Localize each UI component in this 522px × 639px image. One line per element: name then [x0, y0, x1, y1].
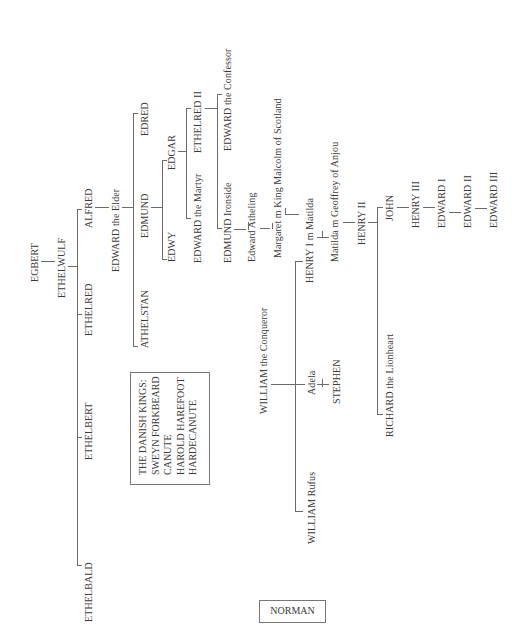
connector-line — [77, 209, 78, 566]
person-ethelbert: ETHELBERT — [83, 402, 95, 460]
connector-line — [285, 208, 286, 215]
connector-line — [217, 94, 222, 95]
person-edward-the-elder: EDWARD the Elder — [110, 189, 122, 272]
connector-line — [449, 212, 461, 213]
person-henry-i: HENRY I m Matilda — [304, 198, 316, 283]
connector-line — [122, 207, 133, 208]
person-edward-ii: EDWARD II — [462, 175, 474, 228]
person-ethelred: ETHELRED — [83, 284, 95, 336]
person-edgar: EDGAR — [166, 135, 178, 170]
connector-line — [217, 94, 218, 229]
person-edmund-ironside: EDMUND Ironside — [222, 182, 234, 263]
connector-line — [377, 207, 383, 208]
person-william-rufus: WILLIAM Rufus — [306, 472, 318, 544]
danish-kings-text: THE DANISH KINGS: SWEYN FORKBEARD CANUTE… — [137, 376, 200, 475]
person-stephen: STEPHEN — [331, 359, 343, 404]
person-henry-ii: HENRY II — [356, 202, 368, 245]
person-egbert: EGBERT — [29, 243, 41, 282]
connector-line — [77, 565, 82, 566]
connector-line — [162, 160, 163, 260]
connector-line — [205, 108, 217, 109]
norman-legend-box: NORMAN — [259, 600, 326, 623]
person-edward-iii: EDWARD III — [488, 172, 500, 228]
connector-line — [178, 151, 186, 152]
connector-line — [234, 229, 246, 230]
connector-line — [186, 108, 187, 219]
connector-line — [77, 209, 82, 210]
connector-line — [151, 207, 162, 208]
danish-king-item: CANUTE — [162, 376, 175, 475]
connector-line — [377, 207, 378, 415]
connector-line — [397, 207, 409, 208]
connector-line — [260, 228, 270, 229]
person-alfred: ALFRED — [83, 189, 95, 229]
person-john: JOHN — [384, 195, 396, 221]
danish-kings-heading: THE DANISH KINGS: — [137, 376, 150, 475]
connector-line — [423, 207, 435, 208]
connector-line — [317, 384, 329, 385]
person-richard-the-lionheart: RICHARD the Lionheart — [384, 334, 396, 437]
person-edwy: EDWY — [166, 232, 178, 262]
connector-line — [217, 228, 222, 229]
connector-line — [271, 384, 305, 385]
connector-line — [248, 222, 249, 230]
person-edward-the-martyr: EDWARD the Martyr — [192, 174, 204, 263]
connector-line — [133, 113, 134, 347]
connector-line — [322, 379, 323, 387]
danish-king-item: HARDECANUTE — [187, 376, 200, 475]
connector-line — [186, 108, 191, 109]
connector-line — [322, 231, 323, 238]
person-athelstan: ATHELSTAN — [139, 290, 151, 348]
connector-line — [295, 511, 303, 512]
family-tree-diagram: EGBERT ETHELWULF ALFRED ETHELRED ETHELBE… — [0, 0, 522, 639]
person-matilda: Matilda m Geoffrey of Anjou — [329, 142, 341, 262]
connector-line — [162, 160, 167, 161]
person-edward-the-confessor: EDWARD the Confessor — [222, 48, 234, 151]
connector-line — [272, 223, 273, 229]
connector-line — [317, 237, 329, 238]
danish-king-item: HAROLD HAREFOOT — [175, 376, 188, 475]
person-william-the-conqueror: WILLIAM the Conqueror — [258, 307, 270, 414]
person-edward-i: EDWARD I — [436, 179, 448, 228]
person-edred: EDRED — [139, 102, 151, 136]
person-margaret: Margaret m King Malcolm of Scotland — [272, 98, 284, 258]
connector-line — [368, 222, 377, 223]
connector-line — [162, 259, 167, 260]
connector-line — [475, 208, 487, 209]
connector-line — [77, 437, 82, 438]
person-adela: Adela — [306, 371, 318, 395]
connector-line — [41, 261, 55, 262]
connector-line — [285, 214, 299, 215]
connector-line — [343, 222, 355, 223]
connector-line — [133, 113, 138, 114]
connector-line — [77, 314, 82, 315]
connector-line — [295, 261, 296, 512]
connector-line — [95, 207, 109, 208]
connector-line — [68, 266, 77, 267]
danish-king-item: SWEYN FORKBEARD — [150, 376, 163, 475]
person-henry-iii: HENRY III — [410, 181, 422, 228]
connector-line — [295, 261, 303, 262]
person-ethelbald: ETHELBALD — [83, 562, 95, 622]
connector-line — [186, 218, 191, 219]
person-ethelred-ii: ETHELRED II — [192, 91, 204, 153]
person-ethelwulf: ETHELWULF — [56, 238, 68, 298]
connector-line — [377, 414, 383, 415]
person-edmund: EDMUND — [139, 194, 151, 239]
danish-kings-box: THE DANISH KINGS: SWEYN FORKBEARD CANUTE… — [130, 372, 210, 485]
connector-line — [133, 346, 138, 347]
